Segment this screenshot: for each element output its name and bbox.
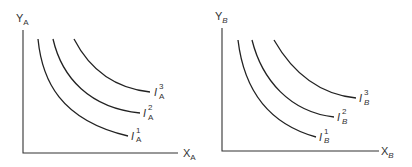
curve-label-b-2: I [337, 111, 340, 123]
panel-a: YA XA I 1 A I 2 A I 3 A [16, 12, 196, 162]
curve-label-a-2: I [143, 107, 146, 119]
curve-sup-a-3: 3 [159, 82, 164, 91]
curve-a-3 [74, 39, 150, 92]
curve-label-a-3: I [154, 86, 157, 98]
axes-b [222, 28, 379, 151]
indifference-diagram: YA XA I 1 A I 2 A I 3 A YB XB I 1 B I 2 … [0, 0, 412, 167]
curve-sub-b-3: B [364, 98, 370, 107]
curve-sub-a-3: A [159, 92, 165, 101]
curve-sub-a-2: A [148, 113, 154, 122]
curve-sub-b-1: B [324, 136, 330, 145]
curve-sup-a-2: 2 [148, 103, 153, 112]
panel-b: YB XB I 1 B I 2 B I 3 B [215, 10, 394, 160]
curve-sup-a-1: 1 [136, 126, 141, 135]
y-axis-label-a: YA [16, 12, 29, 27]
curve-sup-b-3: 3 [364, 88, 369, 97]
curve-sup-b-2: 2 [342, 107, 347, 116]
curve-sup-b-1: 1 [324, 127, 329, 136]
x-axis-label-b: XB [381, 145, 394, 160]
y-axis-label-b: YB [215, 10, 228, 25]
curve-label-b-1: I [319, 131, 322, 143]
curve-sub-b-2: B [342, 117, 348, 126]
curve-b-3 [274, 40, 356, 98]
curve-label-a-1: I [131, 130, 134, 142]
x-axis-label-a: XA [183, 147, 196, 162]
curve-label-b-3: I [359, 92, 362, 104]
curve-a-2 [53, 39, 140, 113]
curve-sub-a-1: A [136, 135, 142, 144]
